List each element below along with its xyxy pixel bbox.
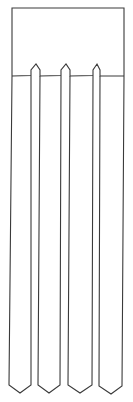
strip-4-outline bbox=[99, 76, 124, 394]
strip-1-outline bbox=[9, 76, 31, 393]
header-box-outline bbox=[12, 8, 124, 76]
strip-diagram bbox=[0, 0, 133, 402]
strip-2-outline bbox=[38, 76, 61, 393]
header-baseline-with-tips bbox=[12, 64, 124, 76]
strip-3-outline bbox=[68, 76, 93, 393]
